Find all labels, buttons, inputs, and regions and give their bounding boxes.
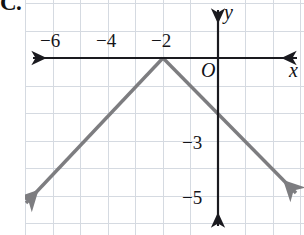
y-axis-label: y <box>224 2 233 22</box>
graph-screenshot: C. <box>0 0 304 235</box>
x-tick-label-minus-4: −4 <box>96 31 116 50</box>
curve-left-ray <box>26 58 163 203</box>
x-tick-label-minus-2: −2 <box>151 31 171 50</box>
x-tick-label-minus-6: −6 <box>40 31 60 50</box>
graph-plot-area: −6 −4 −2 −3 −5 O x y <box>25 0 304 235</box>
curve-right-ray <box>163 58 296 193</box>
origin-label: O <box>201 60 215 80</box>
y-tick-label-minus-3: −3 <box>182 133 202 152</box>
x-axis-label: x <box>289 60 298 80</box>
absolute-value-curve <box>26 58 296 203</box>
y-tick-label-minus-5: −5 <box>182 188 202 207</box>
problem-letter-label: C. <box>0 0 21 14</box>
